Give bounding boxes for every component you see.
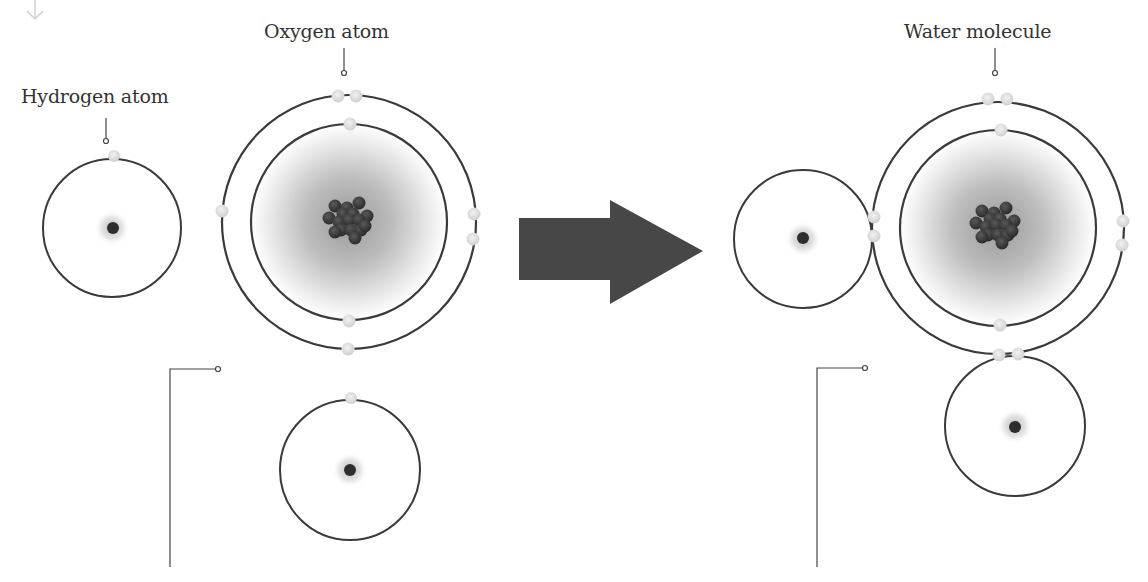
water-hydrogen-leader	[817, 366, 868, 568]
electron	[868, 230, 881, 243]
electron	[1012, 348, 1025, 361]
electron	[993, 349, 1006, 362]
water-formation-illustration	[0, 0, 1148, 582]
oxygen-label-leader	[342, 48, 347, 76]
hydrogen-nucleus	[344, 464, 356, 476]
hydrogen-nucleus	[797, 232, 809, 244]
electron	[467, 233, 480, 246]
electron	[332, 90, 345, 103]
electron	[342, 343, 355, 356]
nucleon	[996, 237, 1009, 250]
water-hydrogen-left	[734, 170, 872, 308]
hydrogen-atom-left	[43, 150, 181, 297]
water-oxygen	[872, 102, 1124, 354]
nucleon	[349, 232, 362, 245]
nucleon	[976, 231, 989, 244]
nucleon	[329, 226, 342, 239]
electron	[868, 211, 881, 224]
nucleon	[353, 197, 366, 210]
nucleon	[1000, 202, 1013, 215]
electron	[108, 150, 120, 162]
water-label-leader	[993, 48, 998, 76]
hydrogen-atom-label: Hydrogen atom	[21, 85, 169, 107]
hydrogen-label-leader	[104, 118, 109, 144]
nucleon	[359, 220, 372, 233]
hydrogen-nucleus	[107, 222, 119, 234]
hydrogen-nucleus	[1009, 421, 1021, 433]
nucleon	[1006, 225, 1019, 238]
diagram-canvas: Hydrogen atom Oxygen atom Water molecule	[0, 0, 1148, 582]
hydrogen-bottom-leader-left	[170, 367, 221, 568]
oxygen-atom	[216, 90, 481, 356]
electron	[344, 118, 357, 131]
electron	[216, 205, 229, 218]
electron	[468, 208, 481, 221]
electron	[1116, 239, 1129, 252]
electron	[994, 319, 1007, 332]
water-hydrogen-bottom	[945, 356, 1085, 496]
electron	[982, 93, 995, 106]
electron	[350, 90, 363, 103]
electron	[1117, 215, 1130, 228]
down-arrow-icon	[27, 0, 43, 19]
water-molecule	[734, 93, 1130, 497]
hydrogen-atom-bottom	[280, 392, 420, 540]
electron	[1001, 93, 1014, 106]
electron	[345, 392, 357, 404]
right-arrow-icon	[519, 200, 703, 304]
electron	[995, 124, 1008, 137]
water-molecule-label: Water molecule	[904, 20, 1051, 42]
oxygen-atom-label: Oxygen atom	[264, 20, 389, 42]
electron	[343, 315, 356, 328]
